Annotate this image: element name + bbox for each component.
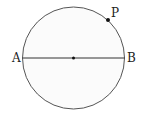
label-p: P bbox=[111, 6, 119, 20]
label-a: A bbox=[11, 51, 21, 65]
point-p bbox=[106, 18, 110, 22]
label-b: B bbox=[127, 51, 136, 65]
circle-diagram: A B P bbox=[0, 0, 141, 113]
center-point bbox=[72, 57, 75, 60]
